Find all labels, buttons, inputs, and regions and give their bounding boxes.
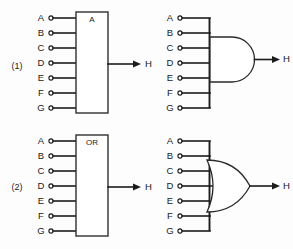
row-1-pin-label-e: E	[38, 72, 44, 83]
row-1-and-gate-body	[210, 37, 255, 82]
diagram-canvas: (1) A B C D E F G	[0, 0, 293, 249]
row-2-right-pin-label-d: D	[167, 180, 174, 191]
row-1-right-output-label: H	[283, 53, 290, 64]
row-2-right-pin-label-b: B	[167, 150, 173, 161]
row-2-pin-label-e: E	[38, 195, 44, 206]
row-2-right-pin-label-g: G	[166, 225, 173, 236]
row-1-gate-circuit: A B C D E F G	[166, 12, 290, 113]
row-2-right-output-label: H	[283, 180, 290, 191]
row-2-block-label: OR	[86, 138, 98, 147]
row-1-group: (1) A B C D E F G	[12, 12, 291, 113]
row-2-pin-label-c: C	[38, 165, 45, 176]
row-2-pin-label-a: A	[38, 135, 45, 146]
row-1-right-pin-label-b: B	[167, 27, 173, 38]
row-1-right-pin-label-d: D	[167, 57, 174, 68]
row-2-pin-label-g: G	[37, 225, 44, 236]
row-1-right-output-arrow-icon	[272, 56, 280, 63]
row-1-pin-label-f: F	[38, 87, 44, 98]
row-1-number: (1)	[12, 61, 23, 71]
row-2-gate-circuit: A B C D E F G	[166, 135, 290, 236]
row-2-right-output-arrow-icon	[272, 183, 280, 190]
row-2-right-pin-label-c: C	[167, 165, 174, 176]
row-2-or-gate-body	[207, 160, 250, 212]
row-1-pin-label-d: D	[38, 57, 45, 68]
row-1-block-label: A	[89, 15, 95, 24]
row-1-right-pin-label-a: A	[167, 12, 174, 23]
row-2-right-pin-label-a: A	[167, 135, 174, 146]
row-1-right-pin-label-g: G	[166, 102, 173, 113]
row-2-output-arrow-icon	[133, 184, 141, 191]
row-1-pin-label-b: B	[38, 27, 44, 38]
row-1-right-pin-label-c: C	[167, 42, 174, 53]
row-1-output-arrow-icon	[133, 61, 141, 68]
row-1-pin-label-g: G	[37, 102, 44, 113]
row-1-block-body	[76, 12, 108, 113]
row-2-number: (2)	[12, 182, 23, 192]
row-2-pin-label-f: F	[38, 210, 44, 221]
row-2-right-pin-label-f: F	[167, 210, 173, 221]
row-2-block-circuit: A B C D E F G	[37, 135, 152, 236]
row-1-block-circuit: A B C D E F G	[37, 12, 152, 113]
row-2-block-body	[76, 135, 108, 236]
logic-diagram: (1) A B C D E F G	[0, 0, 293, 249]
row-1-right-pin-label-f: F	[167, 87, 173, 98]
row-2-pin-label-b: B	[38, 150, 44, 161]
row-2-group: (2) A B C D E F G	[12, 135, 291, 236]
row-2-pin-label-d: D	[38, 180, 45, 191]
row-1-output-label: H	[145, 58, 152, 69]
row-1-pin-label-a: A	[38, 12, 45, 23]
row-1-pin-label-c: C	[38, 42, 45, 53]
row-2-right-pin-label-e: E	[167, 195, 173, 206]
row-2-output-label: H	[145, 181, 152, 192]
row-1-right-pin-label-e: E	[167, 72, 173, 83]
